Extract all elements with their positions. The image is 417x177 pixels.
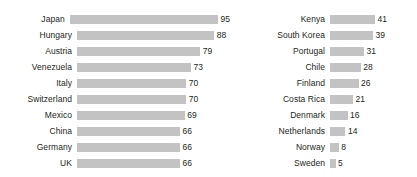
bar-zone: 70 — [72, 75, 230, 91]
bar-zone: 21 — [325, 91, 417, 107]
value-label: 16 — [348, 107, 360, 123]
bar-zone: 79 — [72, 43, 230, 59]
bar — [330, 95, 353, 104]
bar-row: Chile28 — [230, 59, 417, 75]
bar-row: Sweden5 — [230, 155, 417, 171]
bar-zone: 14 — [325, 123, 417, 139]
chart-page: Japan95Hungary88Austria79Venezuela73Ital… — [0, 0, 417, 177]
bar-zone: 5 — [325, 155, 417, 171]
bar — [77, 31, 214, 40]
bar-zone: 16 — [325, 107, 417, 123]
category-label: Hungary — [0, 27, 72, 43]
bar-zone: 88 — [72, 27, 230, 43]
bar-row: Finland26 — [230, 75, 417, 91]
bar-zone: 66 — [72, 155, 230, 171]
bar-row: UK66 — [0, 155, 230, 171]
bar — [330, 63, 361, 72]
bar-row: China66 — [0, 123, 230, 139]
bar-zone: 66 — [72, 139, 230, 155]
bar-row: Germany66 — [0, 139, 230, 155]
bar-row: Austria79 — [0, 43, 230, 59]
value-label: 88 — [214, 27, 226, 43]
bar-zone: 95 — [65, 11, 230, 27]
category-label: Germany — [0, 139, 72, 155]
value-label: 66 — [180, 139, 192, 155]
value-label: 8 — [339, 139, 346, 155]
bar — [330, 79, 359, 88]
category-label: Mexico — [0, 107, 72, 123]
bar — [77, 143, 180, 152]
bar-row: Japan95 — [0, 11, 230, 27]
bar — [77, 95, 186, 104]
bar — [330, 31, 373, 40]
value-label: 5 — [336, 155, 343, 171]
bar — [77, 159, 180, 168]
bar — [330, 15, 375, 24]
value-label: 21 — [353, 91, 365, 107]
category-label: Netherlands — [230, 123, 325, 139]
value-label: 31 — [364, 43, 376, 59]
bar-row: Switzerland70 — [0, 91, 230, 107]
value-label: 39 — [373, 27, 385, 43]
bar-row: Norway8 — [230, 139, 417, 155]
bar-zone: 70 — [72, 91, 230, 107]
bar — [330, 143, 339, 152]
bar — [77, 47, 200, 56]
bar-row: Hungary88 — [0, 27, 230, 43]
bar-zone: 66 — [72, 123, 230, 139]
value-label: 28 — [361, 59, 373, 75]
bar-zone: 31 — [325, 43, 417, 59]
category-label: Austria — [0, 43, 72, 59]
bar-row: Costa Rica21 — [230, 91, 417, 107]
bar — [330, 127, 345, 136]
category-label: South Korea — [230, 27, 325, 43]
category-label: Japan — [0, 11, 65, 27]
chart-panel-left: Japan95Hungary88Austria79Venezuela73Ital… — [0, 0, 230, 177]
bar-zone: 69 — [72, 107, 230, 123]
bar-rows-left: Japan95Hungary88Austria79Venezuela73Ital… — [0, 11, 230, 171]
value-label: 69 — [185, 107, 197, 123]
category-label: Finland — [230, 75, 325, 91]
bar-zone: 73 — [72, 59, 230, 75]
category-label: Denmark — [230, 107, 325, 123]
bar-row: Portugal31 — [230, 43, 417, 59]
bar-zone: 39 — [325, 27, 417, 43]
category-label: Switzerland — [0, 91, 72, 107]
value-label: 70 — [186, 75, 198, 91]
value-label: 14 — [345, 123, 357, 139]
category-label: UK — [0, 155, 72, 171]
value-label: 41 — [375, 11, 387, 27]
value-label: 66 — [180, 155, 192, 171]
category-label: Sweden — [230, 155, 325, 171]
bar-row: Kenya41 — [230, 11, 417, 27]
value-label: 95 — [218, 11, 230, 27]
bar-row: Venezuela73 — [0, 59, 230, 75]
bar — [70, 15, 218, 24]
category-label: Norway — [230, 139, 325, 155]
bar — [330, 47, 364, 56]
bar-zone: 28 — [325, 59, 417, 75]
category-label: Costa Rica — [230, 91, 325, 107]
bar — [330, 111, 348, 120]
category-label: Italy — [0, 75, 72, 91]
bar-row: South Korea39 — [230, 27, 417, 43]
bar-row: Netherlands14 — [230, 123, 417, 139]
value-label: 26 — [359, 75, 371, 91]
category-label: Chile — [230, 59, 325, 75]
category-label: Kenya — [230, 11, 325, 27]
bar-row: Italy70 — [0, 75, 230, 91]
bar — [77, 111, 185, 120]
bar-zone: 41 — [325, 11, 417, 27]
category-label: Portugal — [230, 43, 325, 59]
bar-rows-right: Kenya41South Korea39Portugal31Chile28Fin… — [230, 11, 417, 171]
bar — [77, 79, 186, 88]
category-label: Venezuela — [0, 59, 72, 75]
bar-zone: 8 — [325, 139, 417, 155]
bar-row: Mexico69 — [0, 107, 230, 123]
bar — [77, 127, 180, 136]
value-label: 66 — [180, 123, 192, 139]
bar-zone: 26 — [325, 75, 417, 91]
bar — [77, 63, 191, 72]
chart-panel-right: Kenya41South Korea39Portugal31Chile28Fin… — [230, 0, 417, 177]
value-label: 79 — [200, 43, 212, 59]
